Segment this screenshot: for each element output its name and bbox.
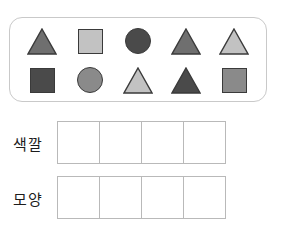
shape-collection-panel: [9, 17, 267, 102]
answer-cell[interactable]: [183, 121, 226, 164]
dark-gray-circle-icon: [125, 28, 151, 54]
answer-row-label-shape: 모양: [13, 176, 57, 220]
shape-item: [116, 24, 160, 58]
dark-gray-triangle-icon: [171, 67, 201, 94]
light-gray-triangle-icon: [219, 28, 249, 55]
shape-item: [68, 63, 112, 97]
answer-cell[interactable]: [183, 176, 226, 219]
light-gray-square-icon: [78, 29, 103, 54]
answer-row-shape: 모양: [0, 176, 281, 220]
shape-item: [212, 63, 256, 97]
answer-cell[interactable]: [141, 121, 184, 164]
shape-item: [116, 63, 160, 97]
shape-item: [164, 24, 208, 58]
answer-cell[interactable]: [141, 176, 184, 219]
shape-item: [20, 24, 64, 58]
gray-triangle-icon: [171, 28, 201, 55]
gray-triangle-icon: [27, 28, 57, 55]
gray-circle-icon: [77, 67, 103, 93]
answer-grid-shape: [57, 176, 226, 219]
answer-cell[interactable]: [57, 176, 100, 219]
shape-row-bottom: [10, 62, 266, 98]
dark-gray-square-icon: [30, 68, 55, 93]
shape-row-top: [10, 23, 266, 59]
answer-cell[interactable]: [57, 121, 100, 164]
shape-item: [212, 24, 256, 58]
answer-grid-color: [57, 121, 226, 164]
shape-item: [164, 63, 208, 97]
answer-cell[interactable]: [99, 176, 142, 219]
shape-item: [68, 24, 112, 58]
light-gray-triangle-icon: [123, 67, 153, 94]
shape-item: [20, 63, 64, 97]
gray-square-icon: [222, 68, 247, 93]
answer-row-color: 색깔: [0, 121, 281, 165]
answer-row-label-color: 색깔: [13, 121, 57, 165]
answer-cell[interactable]: [99, 121, 142, 164]
